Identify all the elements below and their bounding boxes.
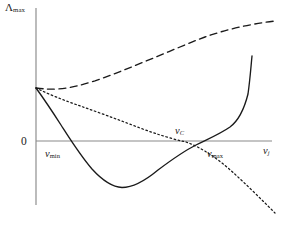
y-axis-label: Λmax xyxy=(5,2,25,14)
y-axis-label-symbol: Λ xyxy=(5,1,13,13)
dotted-curve xyxy=(36,88,275,213)
figure-container: Λmax 0 νmin νC νmax νj xyxy=(0,0,285,236)
nu-min-label: νmin xyxy=(45,149,60,160)
nu-max-subscript: max xyxy=(212,152,223,159)
long-dashed-curve xyxy=(36,21,275,89)
nu-max-label: νmax xyxy=(207,149,223,160)
x-axis-label-subscript: j xyxy=(268,149,270,156)
zero-tick-label: 0 xyxy=(21,136,27,148)
nu-c-label: νC xyxy=(175,126,184,137)
x-axis-label: νj xyxy=(263,146,270,157)
nu-c-subscript: C xyxy=(180,129,184,136)
y-axis-label-subscript: max xyxy=(13,6,25,13)
solid-curve xyxy=(36,56,252,188)
plot-canvas xyxy=(0,0,285,236)
nu-min-subscript: min xyxy=(50,152,60,159)
